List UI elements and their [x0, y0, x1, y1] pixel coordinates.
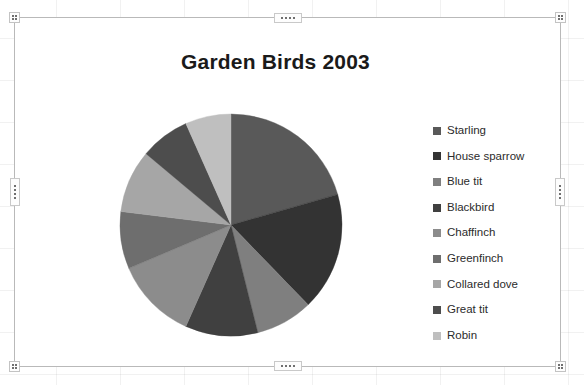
resize-handle-middle-left[interactable]: [10, 178, 20, 206]
legend-color-swatch: [433, 332, 441, 340]
legend-item[interactable]: House sparrow: [433, 144, 553, 170]
resize-handle-top-left[interactable]: [9, 12, 20, 23]
legend-color-swatch: [433, 255, 441, 263]
pie-chart[interactable]: [119, 113, 343, 337]
legend-item[interactable]: Robin: [433, 323, 553, 349]
legend-item[interactable]: Great tit: [433, 297, 553, 323]
legend-item[interactable]: Starling: [433, 118, 553, 144]
resize-handle-middle-right[interactable]: [555, 178, 565, 206]
legend-color-swatch: [433, 280, 441, 288]
legend-item[interactable]: Greenfinch: [433, 246, 553, 272]
legend-color-swatch: [433, 178, 441, 186]
legend-item[interactable]: Blackbird: [433, 195, 553, 221]
resize-handle-bottom-center[interactable]: [274, 361, 302, 371]
legend-item-label: Robin: [447, 330, 477, 342]
legend-color-swatch: [433, 152, 441, 160]
resize-handle-bottom-right[interactable]: [555, 361, 566, 372]
legend-item-label: Blackbird: [447, 202, 494, 214]
legend-color-swatch: [433, 229, 441, 237]
legend-item[interactable]: Blue tit: [433, 169, 553, 195]
legend-item-label: Great tit: [447, 304, 488, 316]
legend-item-label: Starling: [447, 125, 486, 137]
chart-object[interactable]: Garden Birds 2003 StarlingHouse sparrowB…: [14, 17, 561, 367]
chart-title-text: Garden Birds 2003: [181, 50, 370, 74]
pie-chart-svg: [119, 113, 343, 337]
legend-item-label: Greenfinch: [447, 253, 503, 265]
legend-color-swatch: [433, 127, 441, 135]
legend-item-label: Blue tit: [447, 176, 482, 188]
resize-handle-top-right[interactable]: [555, 12, 566, 23]
resize-handle-top-center[interactable]: [274, 13, 302, 23]
legend-item[interactable]: Collared dove: [433, 272, 553, 298]
chart-title[interactable]: Garden Birds 2003: [15, 50, 560, 74]
legend-color-swatch: [433, 204, 441, 212]
legend-item-label: House sparrow: [447, 151, 524, 163]
legend-item-label: Chaffinch: [447, 227, 495, 239]
legend-item-label: Collared dove: [447, 279, 518, 291]
chart-legend[interactable]: StarlingHouse sparrowBlue titBlackbirdCh…: [433, 118, 553, 348]
legend-color-swatch: [433, 306, 441, 314]
legend-item[interactable]: Chaffinch: [433, 220, 553, 246]
pie-slice-group: [120, 114, 342, 336]
resize-handle-bottom-left[interactable]: [9, 361, 20, 372]
